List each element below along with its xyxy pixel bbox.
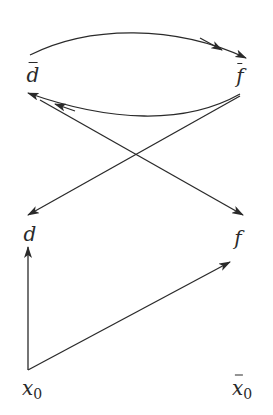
node-fbar-label: f bbox=[236, 64, 243, 88]
node-d: d bbox=[24, 224, 37, 244]
node-x0-subscript: 0 bbox=[33, 386, 42, 402]
diagram-edges bbox=[0, 0, 273, 415]
node-dbar-label: d bbox=[27, 63, 40, 87]
edge-fbar-to-d bbox=[28, 96, 240, 215]
commutative-diagram: d f d f x0 x0 bbox=[0, 0, 273, 415]
node-fbar: f bbox=[236, 66, 243, 86]
node-x0: x0 bbox=[22, 378, 42, 401]
edge-dbar-to-fbar-second-head bbox=[200, 38, 222, 50]
overbar-mark bbox=[237, 63, 242, 64]
edge-x0-to-f bbox=[28, 262, 230, 370]
node-x0bar-label: x bbox=[232, 376, 243, 400]
node-f-label: f bbox=[234, 226, 241, 250]
node-d-label: d bbox=[24, 222, 37, 246]
node-x0bar: x0 bbox=[232, 378, 252, 401]
overbar-mark bbox=[29, 62, 38, 63]
edge-dbar-to-f bbox=[40, 100, 243, 215]
node-f: f bbox=[234, 228, 241, 248]
edge-fbar-to-dbar bbox=[28, 93, 240, 116]
node-x0bar-subscript: 0 bbox=[243, 386, 252, 402]
node-x0-label: x bbox=[22, 376, 33, 400]
node-dbar: d bbox=[27, 65, 40, 85]
overbar-mark bbox=[235, 375, 243, 376]
